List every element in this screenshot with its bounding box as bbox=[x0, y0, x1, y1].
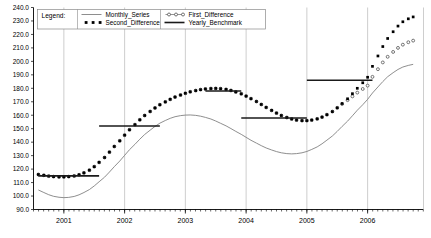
marker-filled-square bbox=[412, 16, 415, 19]
marker-filled-square bbox=[301, 119, 304, 122]
y-tick-label: 120.0 bbox=[13, 165, 30, 172]
marker-open-circle bbox=[397, 46, 400, 49]
marker-filled-square bbox=[189, 90, 192, 93]
marker-filled-square bbox=[98, 161, 101, 164]
marker-filled-square bbox=[275, 112, 278, 115]
x-tick-label: 2004 bbox=[238, 217, 254, 224]
marker-filled-square bbox=[174, 96, 177, 99]
y-tick-label: 200.0 bbox=[13, 58, 30, 65]
y-tick-label: 190.0 bbox=[13, 71, 30, 78]
marker-filled-square bbox=[310, 119, 313, 122]
x-tick-label: 2001 bbox=[56, 217, 72, 224]
legend-key-open-circle bbox=[166, 13, 185, 16]
marker-filled-square bbox=[316, 118, 319, 121]
legend-marker bbox=[92, 21, 95, 24]
marker-filled-square bbox=[128, 128, 131, 131]
y-tick-label: 240.0 bbox=[13, 4, 30, 11]
marker-filled-square bbox=[138, 118, 141, 121]
marker-open-circle bbox=[361, 88, 364, 91]
y-tick-label: 100.0 bbox=[13, 192, 30, 199]
marker-filled-square bbox=[123, 134, 126, 137]
marker-filled-square bbox=[402, 20, 405, 23]
marker-open-circle bbox=[386, 55, 389, 58]
marker-open-circle bbox=[401, 43, 404, 46]
marker-filled-square bbox=[331, 110, 334, 113]
x-tick-label: 2005 bbox=[299, 217, 315, 224]
marker-filled-square bbox=[219, 87, 222, 90]
legend-key-filled-square bbox=[85, 21, 102, 24]
y-tick-label: 90.0 bbox=[16, 206, 29, 213]
y-tick-label: 180.0 bbox=[13, 85, 30, 92]
marker-filled-square bbox=[159, 103, 162, 106]
marker-filled-square bbox=[245, 95, 248, 98]
marker-filled-square bbox=[210, 87, 213, 90]
marker-filled-square bbox=[306, 119, 309, 122]
marker-filled-square bbox=[386, 37, 389, 40]
plot-background bbox=[34, 8, 424, 210]
marker-filled-square bbox=[93, 165, 96, 168]
marker-filled-square bbox=[154, 107, 157, 110]
y-tick-label: 160.0 bbox=[13, 112, 30, 119]
marker-filled-square bbox=[240, 92, 243, 95]
marker-filled-square bbox=[336, 106, 339, 109]
legend-marker bbox=[175, 13, 178, 16]
marker-filled-square bbox=[118, 139, 121, 142]
y-tick-label: 170.0 bbox=[13, 98, 30, 105]
marker-filled-square bbox=[295, 119, 298, 122]
legend-label-monthly-series: Monthly_Series bbox=[106, 11, 150, 19]
marker-filled-square bbox=[381, 45, 384, 48]
legend: Legend:Monthly_SeriesSecond_DifferenceFi… bbox=[38, 10, 266, 30]
chart-plot: 90.0100.0110.0120.0130.0140.0150.0160.01… bbox=[0, 0, 431, 238]
y-tick-label: 110.0 bbox=[13, 179, 29, 186]
chart-container: 90.0100.0110.0120.0130.0140.0150.0160.01… bbox=[0, 0, 431, 238]
marker-filled-square bbox=[361, 81, 364, 84]
marker-filled-square bbox=[214, 87, 217, 90]
marker-open-circle bbox=[366, 84, 369, 87]
marker-filled-square bbox=[346, 97, 349, 100]
y-tick-label: 230.0 bbox=[13, 17, 30, 24]
legend-label-yearly-benchmark: Yearly_Benchmark bbox=[189, 19, 243, 27]
marker-filled-square bbox=[83, 172, 86, 175]
marker-filled-square bbox=[255, 100, 258, 103]
marker-filled-square bbox=[377, 55, 380, 58]
marker-filled-square bbox=[280, 114, 283, 117]
marker-filled-square bbox=[164, 101, 167, 104]
marker-filled-square bbox=[321, 116, 324, 119]
y-tick-label: 130.0 bbox=[13, 152, 30, 159]
marker-filled-square bbox=[169, 98, 172, 101]
marker-open-circle bbox=[381, 61, 384, 64]
marker-open-circle bbox=[376, 68, 379, 71]
marker-filled-square bbox=[326, 113, 329, 116]
y-tick-label: 140.0 bbox=[13, 138, 30, 145]
marker-open-circle bbox=[392, 50, 395, 53]
marker-filled-square bbox=[265, 106, 268, 109]
marker-filled-square bbox=[351, 92, 354, 95]
marker-filled-square bbox=[103, 156, 106, 159]
marker-open-circle bbox=[351, 95, 354, 98]
y-tick-label: 150.0 bbox=[13, 125, 30, 132]
marker-filled-square bbox=[270, 109, 273, 112]
y-tick-label: 210.0 bbox=[13, 44, 30, 51]
marker-filled-square bbox=[194, 89, 197, 92]
marker-filled-square bbox=[397, 25, 400, 28]
legend-label-first-difference: First_Difference bbox=[189, 11, 234, 19]
marker-filled-square bbox=[113, 145, 116, 148]
marker-filled-square bbox=[204, 88, 207, 91]
marker-filled-square bbox=[392, 30, 395, 33]
legend-marker bbox=[99, 21, 102, 24]
marker-filled-square bbox=[199, 88, 202, 91]
marker-open-circle bbox=[371, 75, 374, 78]
legend-marker bbox=[182, 13, 185, 16]
marker-open-circle bbox=[412, 39, 415, 42]
legend-label-second-difference: Second_Difference bbox=[106, 19, 161, 27]
marker-filled-square bbox=[143, 114, 146, 117]
marker-filled-square bbox=[341, 102, 344, 105]
marker-filled-square bbox=[184, 92, 187, 95]
legend-title: Legend: bbox=[42, 12, 66, 20]
x-tick-label: 2006 bbox=[360, 217, 376, 224]
x-tick-label: 2002 bbox=[117, 217, 133, 224]
marker-filled-square bbox=[371, 65, 374, 68]
marker-filled-square bbox=[250, 97, 253, 100]
x-tick-label: 2003 bbox=[178, 217, 194, 224]
marker-filled-square bbox=[356, 87, 359, 90]
